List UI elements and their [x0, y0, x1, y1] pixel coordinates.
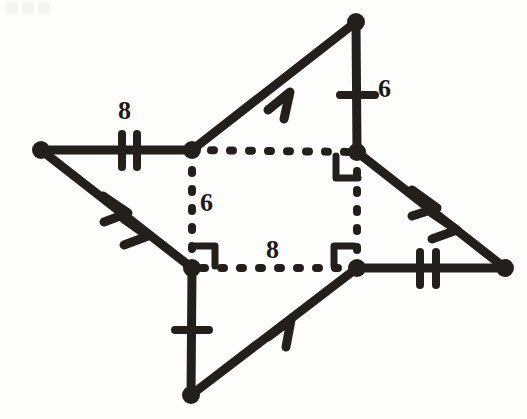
edge-inner-top-left-to-top — [192, 22, 356, 150]
vertex-inner-bottom-left — [183, 259, 201, 277]
dashed-inner-top-edge — [192, 150, 357, 152]
geometry-figure: 8 6 6 8 — [0, 0, 527, 419]
geometry-svg — [0, 0, 527, 419]
label-inner-left-six: 6 — [200, 190, 213, 216]
arrow-left-edge-second — [124, 219, 148, 245]
edge-top-to-inner-top-right — [356, 22, 357, 152]
tick-marks-group — [122, 95, 436, 330]
vertex-bottom-point — [182, 386, 200, 404]
label-inner-bottom-eight: 8 — [266, 237, 279, 263]
arrow-marks-group — [103, 92, 457, 347]
arrow-right-edge-second — [432, 213, 457, 239]
arrow-upper-right-edge — [268, 92, 290, 119]
label-top-right-six: 6 — [378, 76, 391, 102]
vertex-inner-top-right — [348, 143, 366, 161]
vertex-left-point — [32, 141, 50, 159]
arrow-lower-edge — [268, 320, 291, 347]
label-top-left-eight: 8 — [118, 98, 131, 124]
vertex-right-point — [496, 259, 514, 277]
vertex-inner-top-left — [183, 141, 201, 159]
vertex-inner-bottom-right — [348, 259, 366, 277]
vertex-top-point — [347, 13, 365, 31]
vertex-dots-group — [32, 13, 514, 404]
